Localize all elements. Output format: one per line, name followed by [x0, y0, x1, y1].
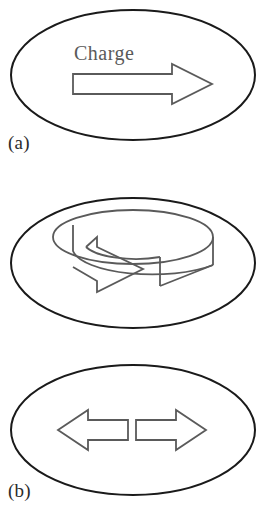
- ellipse-outline-a: [11, 10, 255, 140]
- rotation-arrowhead: [73, 237, 143, 292]
- panel-a-graphic: Charge: [0, 0, 263, 175]
- panel-c-graphic: [0, 350, 263, 524]
- band-inner-front-wall: [86, 247, 160, 259]
- translation-arrow: [73, 64, 212, 104]
- expansion-arrow-right: [136, 410, 206, 450]
- rotation-arrow: [53, 210, 213, 292]
- panel-c: (c): [0, 350, 263, 524]
- expansion-arrow-left: [58, 410, 128, 450]
- panel-a: Charge (a): [0, 0, 263, 175]
- charge-caption: Charge: [74, 42, 134, 65]
- band-outer-front-wall: [73, 225, 213, 274]
- panel-b: (b): [0, 175, 263, 350]
- ellipse-outline-c: [11, 365, 255, 495]
- panel-label-a: (a): [8, 133, 30, 152]
- figure-container: Charge (a): [0, 0, 263, 524]
- panel-b-graphic: [0, 175, 263, 350]
- ellipse-outline-b: [11, 198, 255, 328]
